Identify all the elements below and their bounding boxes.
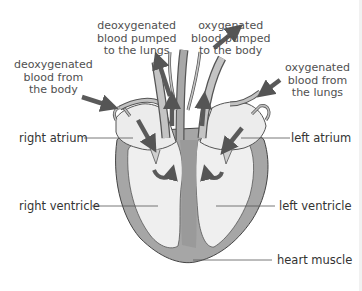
arrow-oxy-in-icon: [264, 80, 280, 92]
label-line: the lungs: [285, 87, 350, 100]
label-right-ventricle: right ventricle: [19, 200, 100, 212]
label-deoxy-from-body: deoxygenated blood from the body: [14, 59, 93, 97]
label-deoxy-to-lungs: deoxygenated blood pumped to the lungs: [97, 20, 176, 58]
heart-diagram: deoxygenated blood from the body deoxyge…: [0, 0, 362, 291]
label-line: to the body: [191, 45, 270, 58]
label-line: deoxygenated: [14, 59, 93, 72]
label-right-atrium: right atrium: [19, 132, 88, 144]
heart-illustration: [0, 0, 362, 291]
label-line: deoxygenated: [97, 20, 176, 33]
arrow-lv-up-icon: [202, 100, 204, 126]
label-line: oxygenated: [285, 62, 350, 75]
label-oxy-from-lungs: oxygenated blood from the lungs: [285, 62, 350, 100]
label-oxy-to-body: oxygenated blood pumped to the body: [191, 20, 270, 58]
label-line: the body: [14, 84, 93, 97]
label-heart-muscle: heart muscle: [277, 254, 352, 266]
label-left-ventricle: left ventricle: [279, 200, 351, 212]
arrow-deoxy-in-icon: [82, 97, 110, 106]
label-line: oxygenated: [191, 20, 270, 33]
label-left-atrium: left atrium: [291, 132, 351, 144]
label-line: to the lungs: [97, 45, 176, 58]
